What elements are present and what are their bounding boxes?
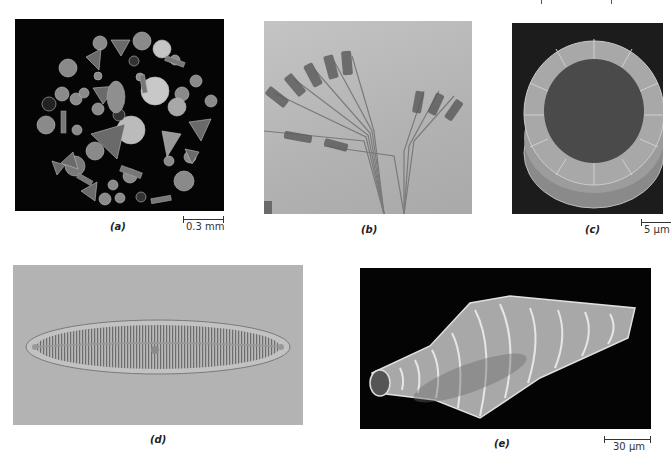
ribbed-diatom-sem-illustration <box>360 268 651 429</box>
panel-a-label: (a) <box>110 221 126 232</box>
cropped-scalebar-tick <box>611 0 612 4</box>
panel-c-label: (c) <box>585 224 600 235</box>
pennate-diatom-illustration <box>13 265 303 425</box>
panel-a-scale-bar: 0.3 mm <box>183 216 224 228</box>
panel-b-label: (b) <box>361 224 377 235</box>
panel-e-scale-bar: 30 μm <box>604 436 651 448</box>
panel-e-label: (e) <box>494 438 510 449</box>
panel-c-image <box>512 23 663 214</box>
centric-diatom-sem-illustration <box>512 23 663 214</box>
cropped-scalebar-tick <box>541 0 542 4</box>
scale-bar-text: 5 μm <box>644 224 670 235</box>
panel-e-image <box>360 268 651 429</box>
scale-bar-text: 30 μm <box>613 441 645 452</box>
panel-c-scale-bar: 5 μm <box>641 219 671 231</box>
panel-d-image <box>13 265 303 425</box>
panel-d-label: (d) <box>150 434 166 445</box>
fan-diatom-colony-illustration <box>264 21 472 214</box>
scale-bar-text: 0.3 mm <box>186 221 225 232</box>
panel-a-image <box>15 19 224 211</box>
panel-b-image <box>264 21 472 214</box>
diatom-collection-illustration <box>15 19 224 211</box>
